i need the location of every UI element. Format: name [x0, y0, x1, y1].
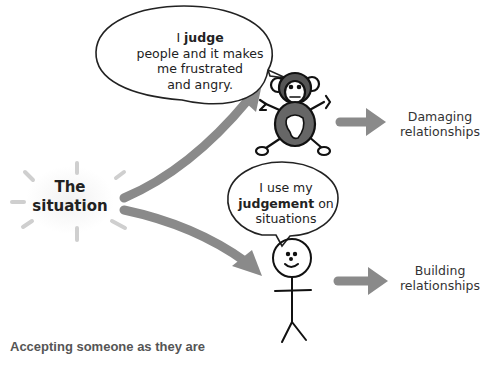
outcome-damaging-label: Damaging relationships: [390, 109, 490, 139]
outcome-building-label: Building relationships: [390, 263, 490, 293]
arrow-to-building-icon: [338, 267, 388, 295]
bubble-judgement-text: I use my judgement on situations: [238, 180, 334, 227]
bubble-judge-text: I judge people and it makes me frustrate…: [130, 30, 270, 92]
arrow-to-damaging-icon: [340, 108, 386, 136]
stick-figure-icon: [273, 239, 311, 342]
situation-label: The situation: [20, 178, 120, 216]
caption: Accepting someone as they are: [10, 339, 205, 354]
